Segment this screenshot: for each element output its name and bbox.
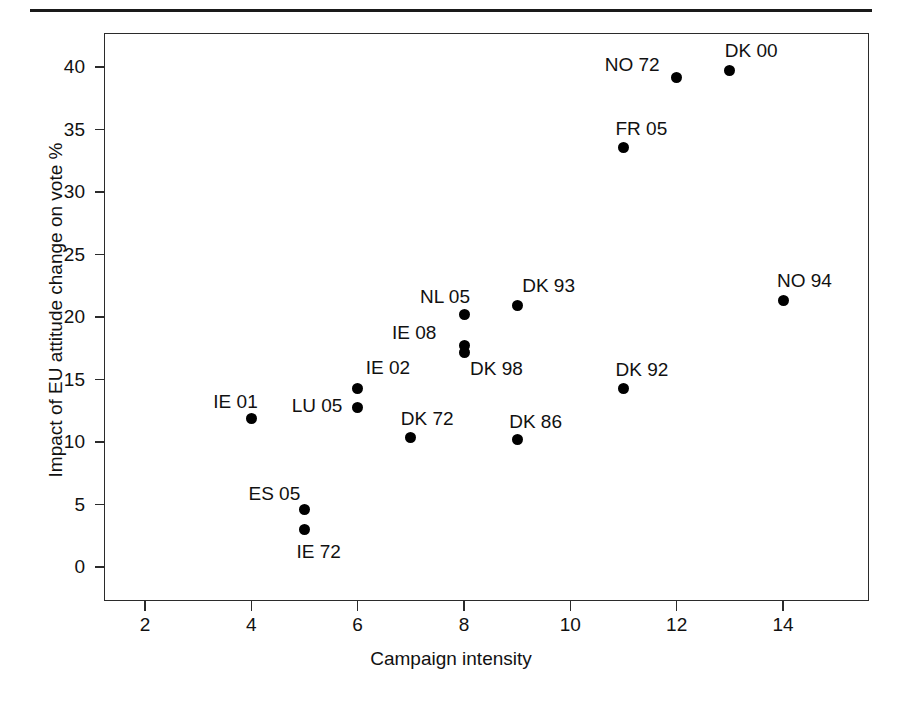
x-axis-title: Campaign intensity — [0, 648, 902, 670]
y-axis-tick — [95, 379, 104, 380]
y-axis-tick — [95, 191, 104, 192]
x-axis-tick-label: 10 — [560, 615, 581, 634]
y-axis-tick-label: 5 — [74, 495, 85, 514]
x-axis-tick — [782, 601, 783, 611]
y-axis-tick-label: 0 — [74, 557, 85, 576]
y-axis-tick — [95, 504, 104, 505]
x-axis-tick — [676, 601, 677, 611]
data-point-label: NO 94 — [777, 271, 832, 290]
scatter-plot-figure: 0510152025303540 2468101214 IE 01ES 05IE… — [0, 0, 902, 701]
data-point — [405, 432, 416, 443]
y-axis-tick-label: 15 — [64, 370, 85, 389]
data-point-label: IE 01 — [213, 392, 257, 411]
data-point-label: LU 05 — [292, 396, 343, 415]
data-point-label: NL 05 — [420, 287, 470, 306]
y-axis-tick — [95, 316, 104, 317]
x-axis-tick — [251, 601, 252, 611]
data-point — [459, 347, 470, 358]
y-axis-tick-label: 35 — [64, 120, 85, 139]
data-point-label: DK 86 — [509, 412, 562, 431]
data-point — [512, 300, 523, 311]
data-point — [246, 413, 257, 424]
data-point-label: ES 05 — [249, 484, 301, 503]
y-axis-tick-label: 25 — [64, 245, 85, 264]
plot-frame — [104, 33, 869, 601]
y-axis-tick — [95, 441, 104, 442]
data-point-label: DK 72 — [401, 409, 454, 428]
data-point — [512, 434, 523, 445]
y-axis-tick-label: 40 — [64, 57, 85, 76]
data-point-label: NO 72 — [605, 55, 660, 74]
y-axis-tick — [95, 66, 104, 67]
data-point-label: DK 00 — [725, 41, 778, 60]
x-axis-tick — [357, 601, 358, 611]
data-point — [299, 524, 310, 535]
data-point — [618, 142, 629, 153]
x-axis-tick-label: 8 — [459, 615, 470, 634]
data-point-label: FR 05 — [616, 119, 668, 138]
x-axis-tick-label: 14 — [772, 615, 793, 634]
x-axis-tick-label: 2 — [140, 615, 151, 634]
data-point-label: DK 93 — [522, 276, 575, 295]
y-axis-tick-label: 10 — [64, 432, 85, 451]
data-point-label: IE 08 — [392, 323, 436, 342]
data-point — [618, 383, 629, 394]
x-axis-tick — [144, 601, 145, 611]
data-point-label: DK 98 — [470, 359, 523, 378]
x-axis-tick — [463, 601, 464, 611]
y-axis-title: Impact of EU attitude change on vote % — [45, 60, 67, 560]
y-axis-tick — [95, 254, 104, 255]
data-point-label: IE 02 — [366, 358, 410, 377]
data-point — [778, 295, 789, 306]
data-point — [299, 504, 310, 515]
data-point — [352, 383, 363, 394]
data-point-label: IE 72 — [297, 542, 341, 561]
x-axis-tick-label: 4 — [246, 615, 257, 634]
data-point-label: DK 92 — [616, 360, 669, 379]
y-axis-tick — [95, 129, 104, 130]
x-axis-tick — [570, 601, 571, 611]
data-point — [352, 402, 363, 413]
data-point — [671, 72, 682, 83]
x-axis-tick-label: 12 — [666, 615, 687, 634]
x-axis-tick-label: 6 — [352, 615, 363, 634]
page-top-rule — [30, 9, 872, 12]
y-axis-tick-label: 30 — [64, 182, 85, 201]
y-axis-tick-label: 20 — [64, 307, 85, 326]
y-axis-tick — [95, 566, 104, 567]
data-point — [459, 309, 470, 320]
